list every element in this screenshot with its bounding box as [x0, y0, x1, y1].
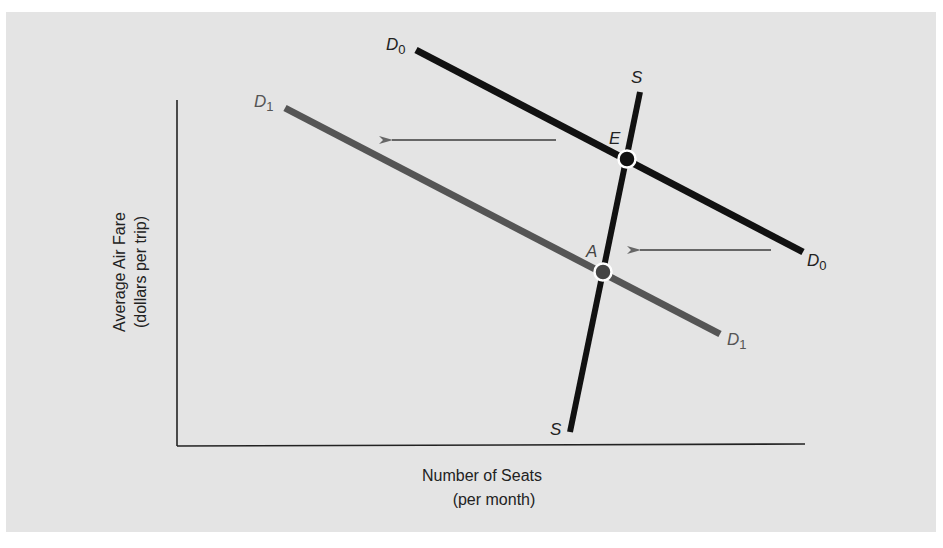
x-axis-title-line2: (per month) [453, 491, 536, 508]
label-d1-top: D1 [254, 92, 274, 114]
demand-curve-d0 [416, 50, 803, 252]
x-axis-title-line1: Number of Seats [422, 467, 542, 484]
y-axis-title-line1: Average Air Fare [111, 212, 128, 332]
label-s-bottom: S [550, 420, 562, 439]
label-d0-bottom: D0 [807, 251, 827, 273]
label-d0-top: D0 [386, 35, 406, 57]
demand-curve-d1 [285, 108, 720, 334]
supply-demand-diagram: D0 D0 D1 D1 S S E A Number of Seats (per… [0, 0, 943, 548]
equilibrium-point-e [619, 151, 636, 168]
label-point-a: A [585, 242, 597, 261]
label-s-top: S [631, 68, 643, 87]
equilibrium-point-a [595, 264, 612, 281]
axes [177, 100, 805, 446]
label-d1-bottom: D1 [727, 330, 747, 352]
y-axis-title-line2: (dollars per trip) [132, 216, 149, 328]
x-axis [177, 444, 805, 446]
label-point-e: E [609, 129, 621, 148]
